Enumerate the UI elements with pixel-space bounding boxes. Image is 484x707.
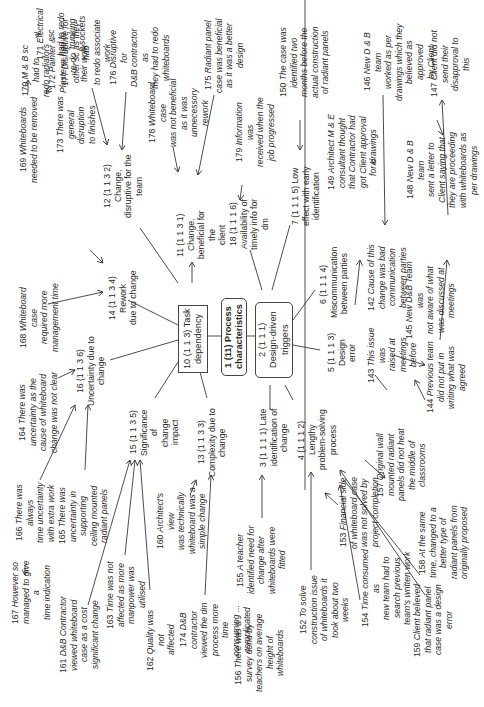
theme-node-18: 18 (1 1 1 6) Availability of timely info… [228,195,270,253]
evidence-text: New D & B team sent a letter to Client s… [405,132,479,208]
evidence-node-169: 169 Whiteboards needed to be removed [18,90,39,190]
evidence-node-164: 164 There was uncertainty as the cause o… [17,370,59,455]
evidence-number: 165 [57,528,67,545]
evidence-text: New D & B team worked as per drawings wh… [362,23,436,100]
evidence-node-162: 162 Quality was not affected [145,605,177,675]
category-node-task-dependency: 10 (1 1 3) Task dependency [178,305,208,373]
evidence-number: 149 [326,174,336,191]
evidence-number: 178 [147,127,157,144]
category-node-design-driven-triggers: 2 (1 1 1) Design-driven triggers [255,302,293,378]
evidence-node-148: 148 New D & B team sent a letter to Clie… [405,130,479,210]
evidence-node-179: 179 Information was received when the jo… [234,95,276,170]
evidence-number: 176 [108,68,118,85]
theme-node-14: 14 (1 1 3 4) Rework due to change [107,262,139,334]
evidence-node-165: 165 There was uncertainty in supporting … [57,480,110,552]
evidence-number: 158 [417,557,427,574]
evidence-number: 144 [425,397,435,414]
evidence-node-159: 159 Client believed that radiant panel c… [412,580,454,660]
evidence-number: 154 [360,610,370,627]
evidence-number: 153 [338,530,348,547]
evidence-number: 150 [278,81,288,98]
evidence-node-166: 166 There was always time uncertainty wi… [14,478,56,548]
evidence-node-163: 163 Time was not affected as more manpow… [105,555,147,635]
concept-map: 1 (11) Process characteristics 10 (1 1 3… [0,0,484,707]
central-node-process-characteristics: 1 (11) Process characteristics [221,298,247,376]
evidence-node-157: 157 Original wall mounted radiant panels… [375,420,428,510]
evidence-number: 143 [366,366,376,383]
evidence-number: 175 [203,74,213,91]
theme-node-15: 15 (1 1 3 5) Significance of change impa… [128,405,181,460]
evidence-number: 166 [14,525,24,542]
evidence-node-178: 178 Whiteboard case was not beneficial a… [147,78,211,148]
theme-node-5: 5 (1 1 1 3) Design error [326,320,358,385]
theme-node-16: 16 (1 1 3 6) Uncertainty due to change [75,335,107,407]
evidence-number: 172 [47,72,57,89]
evidence-number: 160 [155,532,165,549]
theme-node-11: 11 (1 1 3 1) Change, beneficial for the … [175,205,228,265]
theme-node-4: 4 (1 1 1 2) Lengthy problem-solving proc… [296,405,338,475]
evidence-number: 157 [375,480,385,497]
evidence-number: 159 [412,640,422,657]
evidence-number: 167 [10,607,20,624]
evidence-node-156: 156 There was a survey done by teachers … [233,608,286,698]
evidence-node-149: 149 Architect M & E consultant thought t… [326,110,379,195]
theme-node-6: 6 (1 1 1 4) Miscommunication between par… [318,250,350,318]
theme-node-3: 3 (1 1 1 1) Late identification of chang… [258,405,290,470]
evidence-node-168: 168 Whiteboard case required more manage… [18,280,60,355]
evidence-number: 173 [55,137,65,154]
evidence-node-167: 167 However so managed to give a time in… [10,560,52,625]
evidence-node-152: 152 To solve construction issue of white… [298,570,351,650]
evidence-number: 142 [366,294,376,311]
evidence-number: 148 [405,183,415,200]
evidence-number: 162 [145,654,155,671]
theme-node-13: 13 (1 1 3 3) Complexity due to change [196,405,228,480]
evidence-number: 161 [58,657,68,674]
evidence-number: 168 [18,331,28,348]
evidence-node-158: 158 At the same time, changed to a bette… [417,500,470,585]
evidence-node-160: 160 Architect's view was technically whi… [155,485,208,557]
evidence-node-142: 142 Cause of this change was bad communi… [366,240,408,315]
evidence-node-145: 145 New D&B Team was not aware of what w… [404,258,457,343]
evidence-node-172: 172 Painter & Plasterer had to re-do the… [47,32,89,94]
theme-node-7: 7 (1 1 1 5) Low effect with early identi… [290,165,322,227]
evidence-node-175: 175 Radiant panel case was beneficial as… [203,18,245,93]
evidence-number: 145 [404,323,414,340]
evidence-number: 152 [298,617,308,634]
theme-node-12: 12 (1 1 3 2) Change, disruptive for the … [102,150,144,222]
evidence-node-147: 147 Client did not send their disapprova… [429,30,471,98]
evidence-node-161: 161 D&B Contractor viewed whiteboard cas… [58,590,100,680]
evidence-number: 174 [178,630,188,647]
evidence-number: 146 [362,75,372,92]
evidence-node-150: 150 The case was identified two months b… [278,20,331,105]
evidence-node-154: 154 Time consumed as new team had to sea… [360,548,413,628]
evidence-number: 156 [233,668,243,685]
evidence-number: 147 [429,81,439,98]
evidence-node-173: 173 There was general disruption to fini… [55,95,97,155]
evidence-number: 163 [105,612,115,629]
evidence-number: 169 [18,156,28,173]
evidence-node-144: 144 Previous team did not put in writing… [425,340,467,415]
evidence-number: 155 [235,570,245,587]
evidence-number: 164 [17,424,27,441]
evidence-node-155: 155 A teacher identified need for change… [235,520,288,600]
evidence-node-146: 146 New D & B team worked as per drawing… [362,22,436,102]
evidence-number: 179 [234,146,244,163]
evidence-text: Quality was not affected [145,609,176,655]
